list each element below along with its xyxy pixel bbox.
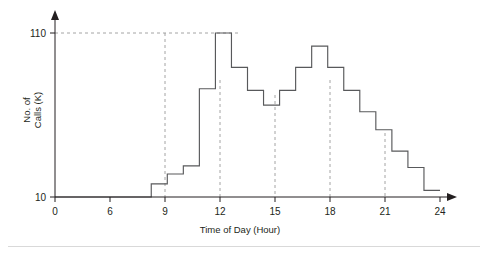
y-axis-title-line1: No. of [21,97,32,123]
y-tick-label-110: 110 [30,28,46,39]
x-axis: 0 6 9 12 15 18 21 24 Time of Day (Hour) [52,193,457,235]
figure-container: 110 10 No. of Calls (K) 0 6 9 12 15 18 2… [0,0,488,258]
y-tick-label-10: 10 [35,192,47,203]
step-series-path [55,33,440,197]
x-tick-label-0: 0 [52,206,58,217]
y-axis-title-line2: Calls (K) [32,92,43,128]
x-axis-arrow [447,193,457,201]
x-tick-label-15: 15 [269,206,281,217]
x-tick-label-24: 24 [434,206,446,217]
step-chart: 110 10 No. of Calls (K) 0 6 9 12 15 18 2… [0,0,488,258]
y-axis-arrow [51,10,59,20]
footer-divider [8,246,480,247]
y-axis: 110 10 No. of Calls (K) [21,10,59,203]
x-tick-label-12: 12 [214,206,226,217]
x-tick-label-6: 6 [107,206,113,217]
x-tick-label-21: 21 [379,206,391,217]
x-tick-label-9: 9 [162,206,168,217]
guide-lines [55,33,385,197]
x-axis-title: Time of Day (Hour) [200,224,280,235]
x-tick-label-18: 18 [324,206,336,217]
